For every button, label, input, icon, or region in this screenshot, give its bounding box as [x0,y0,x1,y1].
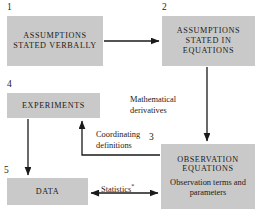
edge-label-line-1: Coordinating [96,130,140,139]
node-assumptions-equations[interactable]: ASSUMPTIONS STATED IN EQUATIONS [162,16,255,66]
edge-label-line-2: definitions [96,141,132,150]
edge-label-coordinating-definitions: Coordinating definitions [96,130,140,151]
node-label-1: ASSUMPTIONS STATED VERBALLY [7,31,103,50]
edge-label-line-2: derivatives [130,106,167,115]
node-assumptions-verbally[interactable]: ASSUMPTIONS STATED VERBALLY [7,16,103,66]
edge-label-text: Statistics [101,185,131,194]
node-sublabel-3: Observation terms and parameters [161,178,255,198]
node-number-1: 1 [7,3,12,13]
edge-label-statistics: Statistics* [101,183,134,195]
node-data[interactable]: DATA [7,178,88,205]
node-number-5: 5 [4,166,9,176]
node-label-4: EXPERIMENTS [22,101,85,111]
node-label-2: ASSUMPTIONS STATED IN EQUATIONS [162,26,255,55]
node-observation-equations[interactable]: OBSERVATION EQUATIONS Observation terms … [161,144,255,209]
node-number-4: 4 [7,80,12,90]
edge-label-line-1: Mathematical [130,95,176,104]
node-number-2: 2 [162,3,167,13]
node-label-3: OBSERVATION EQUATIONS [161,155,255,174]
footnote-marker: * [131,183,134,189]
flow-diagram: 1 ASSUMPTIONS STATED VERBALLY 2 ASSUMPTI… [0,0,258,218]
edge-label-mathematical-derivatives: Mathematical derivatives [130,95,176,116]
node-label-5: DATA [36,187,60,197]
node-number-3: 3 [149,133,154,143]
node-experiments[interactable]: EXPERIMENTS [7,93,100,118]
